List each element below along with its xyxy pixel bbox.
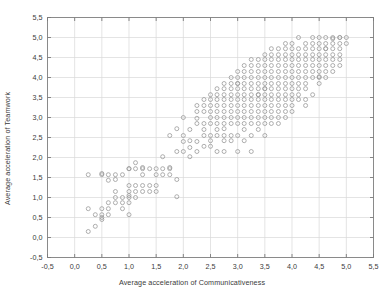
data-point bbox=[120, 207, 124, 211]
y-axis-title-wrapper: Average acceleration of Teamwork bbox=[0, 0, 16, 297]
data-point bbox=[249, 150, 253, 154]
data-point bbox=[195, 122, 199, 126]
data-point bbox=[229, 110, 233, 114]
y-tick-labels: -0,50,00,51,01,52,02,53,03,54,04,55,05,5 bbox=[30, 13, 42, 262]
data-point bbox=[283, 58, 287, 62]
data-point bbox=[311, 93, 315, 97]
x-tick-label: 5,0 bbox=[341, 262, 351, 271]
data-point bbox=[175, 178, 179, 182]
y-tick-label: 2,5 bbox=[33, 133, 43, 142]
x-tick-label: 4,5 bbox=[314, 262, 324, 271]
data-point bbox=[202, 122, 206, 126]
data-point bbox=[311, 47, 315, 51]
data-point bbox=[195, 150, 199, 154]
data-point bbox=[202, 104, 206, 108]
data-point bbox=[304, 64, 308, 68]
data-point bbox=[141, 184, 145, 188]
data-point bbox=[202, 110, 206, 114]
data-point bbox=[256, 64, 260, 68]
data-point bbox=[338, 42, 342, 46]
data-point bbox=[297, 70, 301, 74]
data-point bbox=[276, 122, 280, 126]
data-point bbox=[283, 82, 287, 86]
data-point bbox=[229, 87, 233, 91]
data-point bbox=[161, 173, 165, 177]
data-point bbox=[256, 128, 260, 132]
y-tick-label: 3,5 bbox=[33, 93, 43, 102]
data-point bbox=[283, 42, 287, 46]
data-point bbox=[195, 104, 199, 108]
data-point bbox=[269, 70, 273, 74]
data-point bbox=[113, 178, 117, 182]
data-point bbox=[242, 110, 246, 114]
data-point bbox=[249, 70, 253, 74]
data-point bbox=[304, 98, 308, 102]
data-point bbox=[276, 104, 280, 108]
data-point bbox=[256, 93, 260, 97]
data-point bbox=[304, 53, 308, 57]
data-point bbox=[311, 70, 315, 74]
data-point bbox=[229, 134, 233, 138]
data-point bbox=[188, 155, 192, 159]
x-tick-labels: -0,50,00,51,01,52,02,53,03,54,04,55,05,5 bbox=[41, 262, 378, 271]
data-point bbox=[304, 70, 308, 74]
data-point bbox=[188, 146, 192, 150]
data-point bbox=[324, 53, 328, 57]
data-point bbox=[331, 42, 335, 46]
data-point bbox=[242, 128, 246, 132]
data-point bbox=[283, 93, 287, 97]
y-tick-label: 1,0 bbox=[33, 193, 43, 202]
data-point bbox=[283, 70, 287, 74]
data-point bbox=[242, 82, 246, 86]
data-point bbox=[229, 139, 233, 143]
data-point bbox=[86, 230, 90, 234]
data-point bbox=[338, 53, 342, 57]
data-point bbox=[113, 190, 117, 194]
data-point bbox=[106, 207, 110, 211]
x-tick-label: 0,5 bbox=[97, 262, 107, 271]
data-point bbox=[304, 58, 308, 62]
data-point bbox=[229, 82, 233, 86]
data-point bbox=[249, 82, 253, 86]
data-point bbox=[249, 104, 253, 108]
data-point bbox=[311, 64, 315, 68]
data-point bbox=[283, 110, 287, 114]
data-point bbox=[256, 58, 260, 62]
data-point bbox=[134, 161, 138, 165]
data-point bbox=[269, 93, 273, 97]
data-point bbox=[269, 53, 273, 57]
data-point bbox=[269, 58, 273, 62]
data-point bbox=[256, 98, 260, 102]
x-tick-label: 5,5 bbox=[369, 262, 379, 271]
data-point bbox=[276, 98, 280, 102]
data-point bbox=[106, 201, 110, 205]
data-point bbox=[113, 173, 117, 177]
data-point bbox=[229, 122, 233, 126]
y-tick-label: 5,5 bbox=[33, 13, 43, 22]
data-point bbox=[242, 139, 246, 143]
y-tick-label: 3,0 bbox=[33, 113, 43, 122]
data-point bbox=[269, 82, 273, 86]
data-point bbox=[331, 64, 335, 68]
data-point bbox=[106, 178, 110, 182]
data-point bbox=[195, 110, 199, 114]
data-point bbox=[229, 93, 233, 97]
data-point bbox=[222, 82, 226, 86]
data-point bbox=[222, 127, 226, 131]
data-point bbox=[222, 122, 226, 126]
data-point bbox=[276, 70, 280, 74]
data-point bbox=[242, 64, 246, 68]
data-point bbox=[269, 104, 273, 108]
y-tick-label: 2,0 bbox=[33, 153, 43, 162]
data-point bbox=[215, 150, 219, 154]
data-point bbox=[256, 122, 260, 126]
data-point bbox=[168, 134, 172, 138]
data-point bbox=[222, 104, 226, 108]
y-tick-label: 4,5 bbox=[33, 53, 43, 62]
data-point bbox=[256, 110, 260, 114]
data-point bbox=[249, 98, 253, 102]
data-point bbox=[120, 173, 124, 177]
data-point bbox=[269, 64, 273, 68]
data-point bbox=[215, 104, 219, 108]
data-point bbox=[338, 64, 342, 68]
